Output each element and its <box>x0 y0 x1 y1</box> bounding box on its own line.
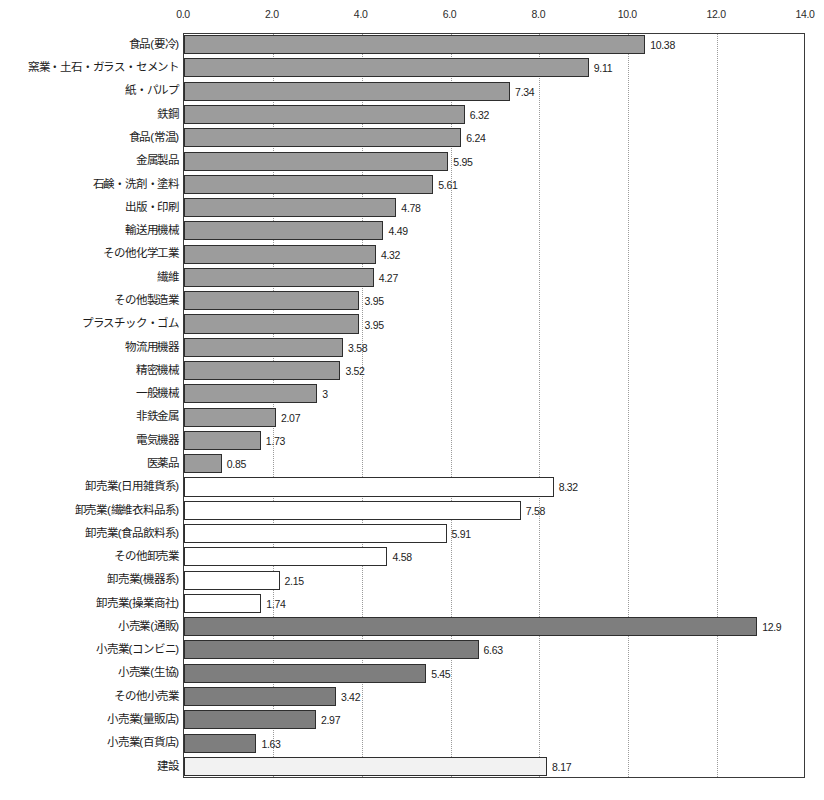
category-label: 卸売業(機器系) <box>0 574 179 586</box>
bar-row: 石鹸・洗剤・塗料5.61 <box>0 173 824 196</box>
category-label: 食品(要冷) <box>0 39 179 51</box>
bar[interactable] <box>184 547 387 566</box>
bar-value-label: 1.63 <box>261 739 280 750</box>
bar[interactable] <box>184 664 426 683</box>
category-label: 一般機械 <box>0 388 179 400</box>
category-label: 卸売業(操業商社) <box>0 598 179 610</box>
bar-row: 精密機械3.52 <box>0 359 824 382</box>
category-label: 小売業(コンビニ) <box>0 644 179 656</box>
bar-row: 輸送用機械4.49 <box>0 219 824 242</box>
bar-value-label: 4.27 <box>379 273 398 284</box>
category-label: 金属製品 <box>0 155 179 167</box>
bar-row: 卸売業(操業商社)1.74 <box>0 592 824 615</box>
bar-value-label: 10.38 <box>650 40 675 51</box>
bar[interactable] <box>184 594 261 613</box>
bar-row: 出版・印刷4.78 <box>0 196 824 219</box>
category-label: 小売業(生協) <box>0 667 179 679</box>
bar-row: 小売業(通販)12.9 <box>0 615 824 638</box>
bar[interactable] <box>184 757 547 776</box>
bar-row: 電気機器1.73 <box>0 429 824 452</box>
bar[interactable] <box>184 82 510 101</box>
bar[interactable] <box>184 58 589 77</box>
bar[interactable] <box>184 524 447 543</box>
bar-value-label: 4.49 <box>388 226 407 237</box>
category-label: 卸売業(繊維衣料品系) <box>0 505 179 517</box>
category-label: その他小売業 <box>0 691 179 703</box>
category-label: 輸送用機械 <box>0 225 179 237</box>
category-label: 鉄鋼 <box>0 109 179 121</box>
category-label: 繊維 <box>0 272 179 284</box>
bar-row: 卸売業(日用雑貨系)8.32 <box>0 475 824 498</box>
bar[interactable] <box>184 431 261 450</box>
bar[interactable] <box>184 128 461 147</box>
bar-value-label: 5.45 <box>431 669 450 680</box>
bar-value-label: 3.58 <box>348 343 367 354</box>
category-label: 小売業(量販店) <box>0 714 179 726</box>
bar-row: その他化学工業4.32 <box>0 243 824 266</box>
bar[interactable] <box>184 501 521 520</box>
category-label: 精密機械 <box>0 365 179 377</box>
bar-value-label: 7.58 <box>526 506 545 517</box>
category-label: その他卸売業 <box>0 551 179 563</box>
bar[interactable] <box>184 314 359 333</box>
bar-row: 窯業・土石・ガラス・セメント9.11 <box>0 56 824 79</box>
x-tick-label: 6.0 <box>443 8 457 20</box>
bar[interactable] <box>184 710 316 729</box>
bar-row: その他製造業3.95 <box>0 289 824 312</box>
bar-chart: 0.02.04.06.08.010.012.014.0 食品(要冷)10.38窯… <box>0 0 824 800</box>
bar[interactable] <box>184 734 256 753</box>
bar[interactable] <box>184 384 317 403</box>
bar[interactable] <box>184 338 343 357</box>
bar[interactable] <box>184 221 383 240</box>
category-label: 建設 <box>0 761 179 773</box>
bar[interactable] <box>184 454 222 473</box>
bar[interactable] <box>184 617 757 636</box>
bar-row: 鉄鋼6.32 <box>0 103 824 126</box>
bar[interactable] <box>184 687 336 706</box>
bar-row: 食品(要冷)10.38 <box>0 33 824 56</box>
bar-value-label: 3.42 <box>341 692 360 703</box>
bar-value-label: 6.32 <box>470 110 489 121</box>
bar-rows: 食品(要冷)10.38窯業・土石・ガラス・セメント9.11紙・パルプ7.34鉄鋼… <box>0 33 824 778</box>
bar[interactable] <box>184 361 340 380</box>
bar[interactable] <box>184 175 433 194</box>
bar[interactable] <box>184 408 276 427</box>
category-label: 窯業・土石・ガラス・セメント <box>0 62 179 74</box>
bar-value-label: 3.95 <box>364 296 383 307</box>
category-label: 小売業(通販) <box>0 621 179 633</box>
x-tick-label: 10.0 <box>618 8 637 20</box>
bar-value-label: 4.58 <box>392 552 411 563</box>
bar-value-label: 5.61 <box>438 180 457 191</box>
x-axis-tick-labels: 0.02.04.06.08.010.012.014.0 <box>0 0 824 33</box>
bar-value-label: 2.07 <box>281 413 300 424</box>
bar-value-label: 5.95 <box>453 157 472 168</box>
bar-row: 食品(常温)6.24 <box>0 126 824 149</box>
bar-row: 繊維4.27 <box>0 266 824 289</box>
category-label: 卸売業(食品飲料系) <box>0 528 179 540</box>
bar-value-label: 6.24 <box>466 133 485 144</box>
bar-value-label: 3.95 <box>364 320 383 331</box>
bar[interactable] <box>184 571 280 590</box>
bar-row: 一般機械3 <box>0 382 824 405</box>
bar[interactable] <box>184 152 448 171</box>
bar[interactable] <box>184 198 396 217</box>
bar[interactable] <box>184 245 376 264</box>
bar-value-label: 4.32 <box>381 250 400 261</box>
bar-row: 物流用機器3.58 <box>0 336 824 359</box>
bar[interactable] <box>184 477 554 496</box>
bar[interactable] <box>184 291 359 310</box>
bar[interactable] <box>184 105 465 124</box>
bar-value-label: 0.85 <box>227 459 246 470</box>
category-label: 石鹸・洗剤・塗料 <box>0 179 179 191</box>
bar-row: 医薬品0.85 <box>0 452 824 475</box>
category-label: 医薬品 <box>0 458 179 470</box>
bar[interactable] <box>184 640 479 659</box>
category-label: 出版・印刷 <box>0 202 179 214</box>
x-tick-label: 12.0 <box>707 8 726 20</box>
bar[interactable] <box>184 268 374 287</box>
x-tick-label: 14.0 <box>795 8 814 20</box>
bar-row: 小売業(百貨店)1.63 <box>0 731 824 754</box>
bar[interactable] <box>184 35 645 54</box>
x-tick-label: 0.0 <box>176 8 190 20</box>
bar-row: 卸売業(機器系)2.15 <box>0 568 824 591</box>
